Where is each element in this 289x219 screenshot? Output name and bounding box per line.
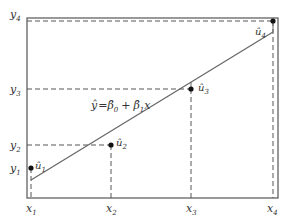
x-label-2: x2 <box>106 202 117 217</box>
residual-label-3: û3 <box>198 82 209 96</box>
y-label-1: y1 <box>9 162 21 177</box>
regression-line <box>31 32 273 180</box>
data-point-1 <box>28 165 33 170</box>
x-label-3: x3 <box>186 202 197 217</box>
y-label-3: y3 <box>9 83 21 98</box>
residual-label-2: û2 <box>116 137 127 151</box>
residual-label-4: û4 <box>255 26 266 40</box>
residual-label-1: û1 <box>35 160 46 174</box>
plot-frame <box>27 18 278 198</box>
y-label-2: y2 <box>9 139 21 154</box>
regression-equation: ŷ=β̂0+β̂1x <box>90 99 151 114</box>
data-point-4 <box>270 18 275 23</box>
data-point-2 <box>108 142 113 147</box>
regression-diagram: y1 y2 y3 y4 x1 x2 x3 x4 û1 û2 û3 û4 ŷ=β̂… <box>0 0 289 219</box>
x-label-1: x1 <box>26 202 37 217</box>
data-point-3 <box>188 86 193 91</box>
y-label-4: y4 <box>9 8 21 23</box>
x-label-4: x4 <box>267 202 278 217</box>
